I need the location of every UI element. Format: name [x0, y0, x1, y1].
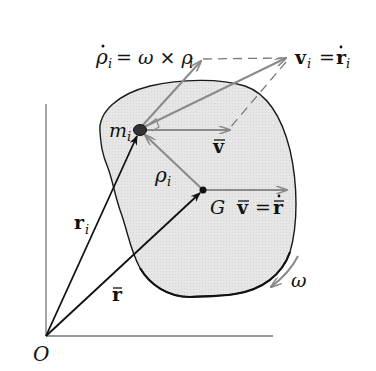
v-bar-eq-rhs: r	[273, 196, 284, 218]
rho-dot-rhs-sub: i	[189, 56, 193, 71]
origin-label: O	[33, 342, 49, 366]
v-i-lhs-sub: i	[307, 56, 311, 71]
v-i-equation-label: v i = r i	[294, 46, 350, 71]
ri-label-main: r	[74, 211, 85, 233]
center-of-mass-g	[200, 187, 207, 194]
v-bar-eq-lhs: v	[236, 196, 249, 218]
dashed-line-top	[203, 58, 282, 59]
r-i-vector	[46, 136, 137, 336]
rho-i-label-main: ρ	[154, 163, 167, 187]
rigid-body-kinematics-diagram: O G m i r i r ρ i v v = r ρ i = ω × ρ i …	[0, 0, 376, 371]
v-bar-equals-r-bar-dot-label: v = r	[236, 195, 284, 218]
v-i-lhs: v	[294, 46, 307, 68]
rho-i-label-sub: i	[167, 174, 171, 189]
rho-dot-equation-label: ρ i = ω × ρ i	[95, 45, 193, 72]
rho-dot-eq: = ω × ρ	[116, 46, 193, 68]
v-i-eq: =	[319, 46, 335, 68]
omega-label: ω	[291, 269, 307, 291]
r-bar-label-main: r	[112, 283, 123, 305]
mi-label-sub: i	[127, 129, 131, 144]
particle-mi	[134, 125, 147, 136]
g-label: G	[210, 196, 225, 218]
v-bar-label-main: v	[212, 135, 225, 157]
r-bar-label: r	[112, 283, 123, 305]
mi-label-main: m	[109, 119, 127, 141]
rigid-body	[100, 80, 296, 297]
v-i-rhs-sub: i	[346, 56, 350, 71]
ri-label-sub: i	[85, 222, 89, 237]
v-bar-eq-equals: =	[255, 196, 271, 218]
rho-dot-lhs-sub: i	[108, 56, 112, 71]
rho-dot-lhs: ρ	[95, 45, 108, 69]
ri-label: r i	[74, 211, 89, 237]
v-bar-label-at-particle: v	[212, 135, 225, 157]
